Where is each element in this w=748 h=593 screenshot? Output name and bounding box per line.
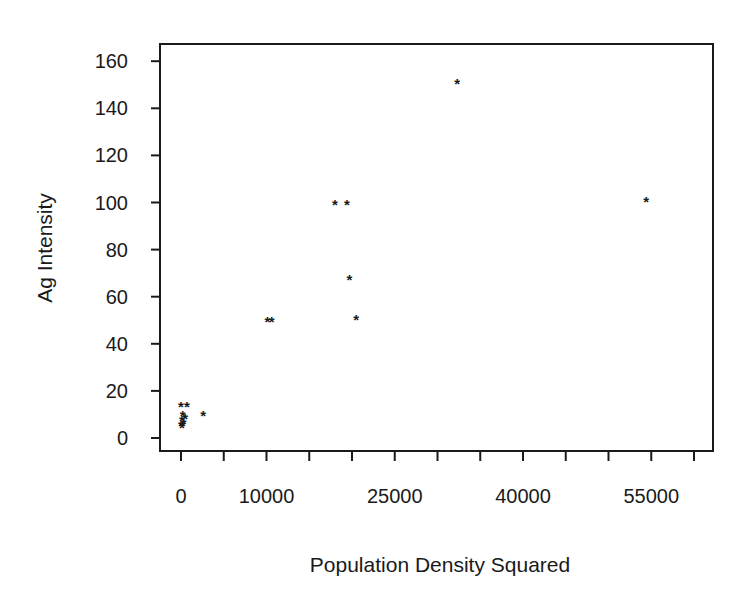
x-axis: 010000250004000055000 xyxy=(175,451,694,507)
x-axis-title: Population Density Squared xyxy=(310,553,570,576)
chart-canvas: 020406080100120140160 010000250004000055… xyxy=(0,0,748,593)
y-axis-title: Ag Intensity xyxy=(33,193,56,303)
y-tick-label: 40 xyxy=(106,333,128,355)
y-tick-label: 80 xyxy=(106,239,128,261)
y-tick-label: 0 xyxy=(117,427,128,449)
x-tick-label: 25000 xyxy=(367,485,423,507)
y-tick-label: 100 xyxy=(95,192,128,214)
data-point-star-marker: * xyxy=(332,196,338,213)
x-tick-label: 40000 xyxy=(495,485,551,507)
data-point-star-marker: * xyxy=(353,311,359,328)
scatter-chart: 020406080100120140160 010000250004000055… xyxy=(0,0,748,593)
data-point-star-marker: * xyxy=(344,196,350,213)
y-tick-label: 120 xyxy=(95,144,128,166)
data-point-star-marker: * xyxy=(200,407,206,424)
data-point-star-marker: * xyxy=(347,271,353,288)
y-tick-label: 160 xyxy=(95,50,128,72)
x-tick-label: 55000 xyxy=(623,485,679,507)
x-tick-label: 10000 xyxy=(239,485,295,507)
data-points: ****************** xyxy=(178,75,649,436)
y-tick-label: 140 xyxy=(95,97,128,119)
data-point-star-marker: * xyxy=(454,75,460,92)
data-point-star-marker: * xyxy=(179,419,185,436)
y-tick-label: 20 xyxy=(106,380,128,402)
data-point-star-marker: * xyxy=(269,313,275,330)
data-point-star-marker: * xyxy=(643,193,649,210)
plot-border xyxy=(160,44,713,451)
plot-frame xyxy=(160,44,713,451)
x-tick-label: 0 xyxy=(175,485,186,507)
y-axis: 020406080100120140160 xyxy=(95,50,160,449)
y-tick-label: 60 xyxy=(106,286,128,308)
